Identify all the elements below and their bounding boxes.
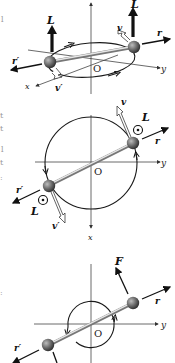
velocity-arrow-v-prime xyxy=(52,68,62,79)
label-L-right: L xyxy=(130,0,139,11)
label-L-left: L xyxy=(30,205,39,218)
label-origin: O xyxy=(93,63,101,74)
angular-momentum-out-of-page-icon xyxy=(134,126,143,135)
svg-text::: : xyxy=(0,173,3,182)
position-vector-r xyxy=(142,39,170,44)
label-v-prime: v′ xyxy=(55,83,63,93)
label-r: r xyxy=(155,296,161,306)
svg-text:t: t xyxy=(0,111,4,120)
force-vector-F-prime xyxy=(53,352,57,363)
label-r-prime: r′ xyxy=(16,185,24,195)
svg-text:l: l xyxy=(1,145,4,154)
orbit-direction-arrow xyxy=(136,154,137,160)
mass-right xyxy=(127,297,139,309)
angular-momentum-out-of-page-icon xyxy=(39,196,48,205)
label-r: r xyxy=(157,28,163,38)
label-v-prime: v′ xyxy=(52,221,60,231)
label-L-left: L xyxy=(46,14,55,27)
label-v: v xyxy=(117,23,123,33)
velocity-arrow-v xyxy=(117,106,131,138)
panel-middle: v L r O y r′ L v′ x xyxy=(13,97,168,242)
orbit-direction-arrow xyxy=(45,166,46,172)
cropped-text-fragments: l t t l t : : xyxy=(0,15,4,297)
mass-right xyxy=(127,137,139,149)
label-y-axis: y xyxy=(160,158,167,168)
label-origin: O xyxy=(94,166,102,177)
svg-text:l: l xyxy=(1,15,4,24)
label-x-axis: x xyxy=(88,233,93,242)
label-v: v xyxy=(121,97,127,107)
label-r-prime: r′ xyxy=(14,343,22,353)
label-r-prime: r′ xyxy=(12,56,20,66)
force-vector-F xyxy=(116,268,128,294)
svg-text:t: t xyxy=(0,124,4,133)
svg-text:t: t xyxy=(0,158,4,167)
panel-top: L L v v′ r r′ O x y xyxy=(11,0,170,94)
mass-left xyxy=(43,180,55,192)
panel-bottom: F r O y r′ xyxy=(13,255,170,363)
label-y-axis: y xyxy=(160,64,167,74)
label-r: r xyxy=(155,136,161,146)
mass-right xyxy=(128,41,140,53)
dumbbell-diagram: l t t l t : : L xyxy=(0,0,175,363)
label-F: F xyxy=(114,255,124,268)
label-origin: O xyxy=(94,328,102,339)
mass-left xyxy=(42,339,54,351)
label-y-axis: y xyxy=(160,320,167,330)
mass-left xyxy=(44,56,56,68)
label-x-axis: x xyxy=(25,82,30,91)
label-L-right: L xyxy=(141,111,150,124)
svg-text::: : xyxy=(0,288,3,297)
